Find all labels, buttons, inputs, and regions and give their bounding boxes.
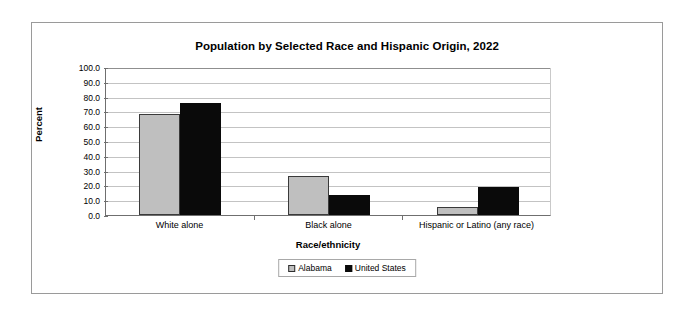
x-axis-tick-label: White alone xyxy=(105,220,254,230)
gridline xyxy=(106,83,550,84)
bar-black-alone-united-states xyxy=(329,195,370,215)
legend-label: Alabama xyxy=(298,263,332,273)
plot-wrapper: Percent 100.090.080.070.060.050.040.030.… xyxy=(32,23,662,293)
y-axis-tick-label: 0.0 xyxy=(56,212,100,221)
bar-hispanic-or-latino-any-race-united-states xyxy=(478,187,519,215)
gridline xyxy=(106,112,550,113)
y-axis-tick-label: 20.0 xyxy=(56,182,100,191)
y-axis-tick-label: 50.0 xyxy=(56,138,100,147)
y-axis-tick-mark xyxy=(104,172,108,173)
y-axis-tick-mark xyxy=(104,157,108,158)
y-axis-tick-mark xyxy=(104,201,108,202)
y-axis-tick-label: 10.0 xyxy=(56,197,100,206)
legend-swatch-icon xyxy=(345,265,352,272)
gridline xyxy=(106,98,550,99)
y-axis-tick-label: 40.0 xyxy=(56,153,100,162)
bar-hispanic-or-latino-any-race-alabama xyxy=(437,207,478,215)
chart-container: Population by Selected Race and Hispanic… xyxy=(31,22,663,294)
x-axis-tick-labels: White aloneBlack aloneHispanic or Latino… xyxy=(105,220,551,236)
x-axis-title: Race/ethnicity xyxy=(105,239,551,250)
y-axis-tick-mark xyxy=(104,98,108,99)
y-axis-tick-mark xyxy=(104,83,108,84)
plot-area xyxy=(105,68,551,216)
y-axis-tick-mark xyxy=(104,112,108,113)
y-axis-tick-label: 30.0 xyxy=(56,168,100,177)
x-axis-tick-label: Hispanic or Latino (any race) xyxy=(402,220,551,230)
y-axis-tick-mark xyxy=(104,142,108,143)
x-axis-tick-mark xyxy=(254,216,255,220)
y-axis-tick-mark xyxy=(104,68,108,69)
y-axis-tick-label: 70.0 xyxy=(56,108,100,117)
y-axis-tick-labels: 100.090.080.070.060.050.040.030.020.010.… xyxy=(50,68,100,216)
legend-swatch-icon xyxy=(288,265,295,272)
y-axis-tick-mark xyxy=(104,186,108,187)
y-axis-tick-label: 90.0 xyxy=(56,79,100,88)
bar-white-alone-alabama xyxy=(139,114,180,215)
legend-item-alabama[interactable]: Alabama xyxy=(288,263,332,273)
y-axis-tick-mark xyxy=(104,216,108,217)
bar-white-alone-united-states xyxy=(180,103,221,215)
gridline xyxy=(106,68,550,69)
y-axis-tick-label: 80.0 xyxy=(56,94,100,103)
x-axis-tick-label: Black alone xyxy=(254,220,403,230)
bar-black-alone-alabama xyxy=(288,176,329,215)
y-axis-title: Percent xyxy=(33,107,44,142)
y-axis-tick-label: 100.0 xyxy=(56,64,100,73)
legend-label: United States xyxy=(355,263,406,273)
y-axis-tick-mark xyxy=(104,127,108,128)
legend-item-united-states[interactable]: United States xyxy=(345,263,406,273)
chart-legend: AlabamaUnited States xyxy=(278,259,416,277)
y-axis-tick-label: 60.0 xyxy=(56,123,100,132)
x-axis-tick-mark xyxy=(402,216,403,220)
